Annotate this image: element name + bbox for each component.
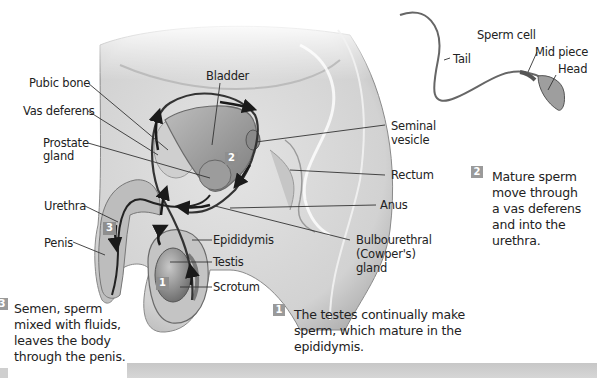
step-1-caption: The testes continually make sperm, which… — [294, 307, 465, 355]
label-bulbourethral-line3: gland — [356, 261, 387, 275]
step-1-badge: 1 — [273, 304, 285, 316]
label-seminal-line1: Seminal — [391, 119, 436, 133]
footer-stub — [0, 368, 8, 378]
footer-bar — [127, 363, 597, 378]
label-penis: Penis — [44, 236, 73, 250]
label-prostate-line1: Prostate — [43, 136, 89, 150]
label-sperm-cell: Sperm cell — [477, 28, 536, 42]
label-bulbourethral-line1: Bulbourethral — [356, 233, 432, 247]
marker-1: 1 — [156, 277, 169, 290]
label-bulbourethral-line2: (Cowper's) — [356, 247, 416, 261]
label-urethra: Urethra — [44, 199, 86, 213]
label-scrotum: Scrotum — [213, 280, 260, 294]
step-2-badge: 2 — [471, 166, 483, 178]
step-2-caption: Mature sperm move through a vas deferens… — [492, 169, 581, 249]
label-prostate-line2: gland — [43, 149, 74, 163]
label-head: Head — [558, 62, 587, 76]
marker-3: 3 — [103, 222, 116, 235]
label-tail: Tail — [453, 52, 471, 66]
label-pubic-bone: Pubic bone — [29, 76, 90, 90]
step-3-caption: Semen, sperm mixed with fluids, leaves t… — [14, 301, 125, 365]
label-vas-deferens: Vas deferens — [23, 104, 95, 118]
label-rectum: Rectum — [391, 168, 434, 182]
label-testis: Testis — [213, 255, 244, 269]
label-mid-piece: Mid piece — [535, 45, 588, 59]
marker-2: 2 — [225, 152, 238, 165]
step-3-badge: 3 — [0, 298, 8, 310]
label-epididymis: Epididymis — [213, 233, 274, 247]
testis — [155, 248, 191, 302]
label-bladder: Bladder — [206, 69, 249, 83]
label-seminal-line2: vesicle — [391, 133, 429, 147]
label-anus: Anus — [380, 198, 408, 212]
